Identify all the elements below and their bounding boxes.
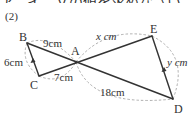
length-ae: x cm xyxy=(95,30,117,42)
label-point-c: C xyxy=(30,78,38,92)
length-ad: 18cm xyxy=(100,86,125,98)
label-point-d: D xyxy=(174,102,183,116)
length-ac: 7cm xyxy=(54,71,73,83)
arrow-mark-bc-icon xyxy=(31,58,36,63)
label-point-e: E xyxy=(150,22,157,36)
point-a-dot xyxy=(75,61,78,64)
label-point-b: B xyxy=(19,30,27,44)
problem-number: (2) xyxy=(5,10,18,23)
label-point-a: A xyxy=(71,44,80,58)
length-bc: 6cm xyxy=(4,56,23,68)
similar-triangles-diagram: (2) B C A E D 9cm 6cm 7cm x cm y cm 18cm xyxy=(0,0,196,119)
length-ed: y cm xyxy=(166,56,188,68)
length-ab: 9cm xyxy=(43,37,62,49)
